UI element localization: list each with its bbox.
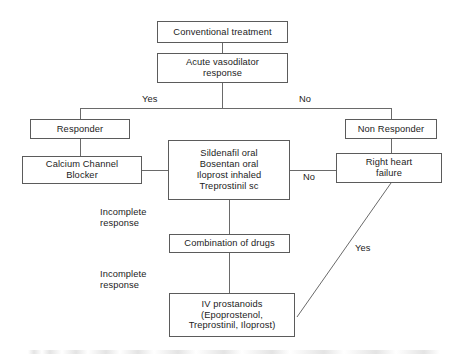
edge-therapy-to-rhf <box>290 170 336 171</box>
node-responder[interactable]: Responder <box>30 119 130 139</box>
page-bottom-text-smudge <box>28 350 440 354</box>
edge-label-yes-branch: Yes <box>142 94 157 105</box>
node-iv-prostanoids[interactable]: IV prostanoids(Epoprostenol,Treprostinil… <box>169 293 295 337</box>
edge-label-yes-diagonal: Yes <box>355 243 370 254</box>
edge-ccb-to-therapy <box>142 170 169 171</box>
node-oral-inhaled-therapy-label: Sildenafil oralBosentan oralIloprost inh… <box>194 148 265 192</box>
edge-non-responder-to-rhf <box>391 139 392 153</box>
node-calcium-channel-blocker[interactable]: Calcium ChannelBlocker <box>22 156 142 184</box>
edge-responder-to-ccb <box>80 139 81 156</box>
node-acute-vasodilator-response-label: Acute vasodilatorresponse <box>183 57 262 79</box>
node-combination-of-drugs[interactable]: Combination of drugs <box>169 234 290 253</box>
node-conventional-treatment[interactable]: Conventional treatment <box>157 21 288 43</box>
edge-acute-to-branch-stem <box>222 83 223 109</box>
edge-branch-horizontal <box>80 108 392 109</box>
node-combination-of-drugs-label: Combination of drugs <box>181 238 277 249</box>
edge-branch-to-responder <box>80 108 81 119</box>
node-acute-vasodilator-response[interactable]: Acute vasodilatorresponse <box>157 53 288 83</box>
node-conventional-treatment-label: Conventional treatment <box>170 27 274 38</box>
node-oral-inhaled-therapy[interactable]: Sildenafil oralBosentan oralIloprost inh… <box>168 140 290 200</box>
edge-combination-to-prostanoids <box>229 253 230 293</box>
edge-right-heart-failure-to-iv-prostanoids <box>297 183 391 317</box>
edge-therapy-to-combination <box>229 200 230 234</box>
node-iv-prostanoids-label: IV prostanoids(Epoprostenol,Treprostinil… <box>186 299 279 332</box>
edge-label-incomplete-response-2: Incompleteresponse <box>100 269 146 291</box>
node-right-heart-failure[interactable]: Right heartfailure <box>336 153 442 183</box>
edge-label-no-branch: No <box>299 94 311 105</box>
node-calcium-channel-blocker-label: Calcium ChannelBlocker <box>43 159 121 181</box>
node-responder-label: Responder <box>54 124 106 135</box>
node-non-responder-label: Non Responder <box>355 124 427 135</box>
edge-label-no-right-heart-failure: No <box>301 172 317 183</box>
edge-label-incomplete-response-1: Incompleteresponse <box>100 207 146 229</box>
node-right-heart-failure-label: Right heartfailure <box>363 157 416 179</box>
node-non-responder[interactable]: Non Responder <box>345 119 437 139</box>
edge-branch-to-non-responder <box>391 108 392 119</box>
flowchart-canvas: Conventional treatment Acute vasodilator… <box>0 0 466 355</box>
